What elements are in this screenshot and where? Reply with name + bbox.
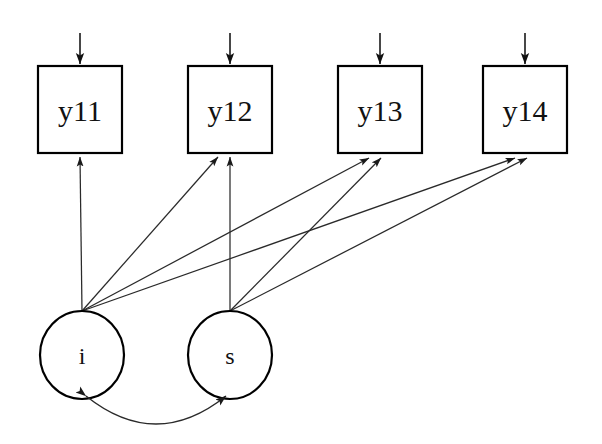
latent-label-s: s bbox=[225, 343, 234, 369]
sem-path-diagram: y11 y12 y13 y14 i s bbox=[0, 0, 602, 444]
loading-path-i-y14 bbox=[82, 158, 515, 311]
loading-path-i-y11 bbox=[80, 157, 82, 311]
latent-node-i[interactable]: i bbox=[40, 311, 124, 399]
latent-variables-group: i s bbox=[40, 311, 272, 399]
observed-node-y13[interactable]: y13 bbox=[338, 66, 422, 153]
loading-path-i-y12 bbox=[82, 157, 218, 311]
observed-node-y11[interactable]: y11 bbox=[38, 66, 122, 153]
loading-path-s-y13 bbox=[230, 158, 381, 311]
observed-label-y13: y13 bbox=[358, 94, 403, 127]
covariance-group bbox=[86, 396, 226, 424]
residual-arrows-group bbox=[80, 33, 525, 64]
loading-path-i-y13 bbox=[82, 158, 369, 311]
observed-node-y12[interactable]: y12 bbox=[188, 66, 272, 153]
loading-path-s-y14 bbox=[230, 158, 527, 311]
covariance-curve-i-s bbox=[86, 396, 226, 424]
observed-variables-group: y11 y12 y13 y14 bbox=[38, 66, 567, 153]
diagram-canvas: y11 y12 y13 y14 i s bbox=[0, 0, 602, 444]
latent-label-i: i bbox=[79, 343, 86, 369]
observed-label-y14: y14 bbox=[503, 94, 548, 127]
observed-label-y11: y11 bbox=[58, 94, 102, 127]
observed-label-y12: y12 bbox=[208, 94, 253, 127]
loading-paths-group bbox=[80, 157, 527, 311]
observed-node-y14[interactable]: y14 bbox=[483, 66, 567, 153]
latent-node-s[interactable]: s bbox=[188, 311, 272, 399]
